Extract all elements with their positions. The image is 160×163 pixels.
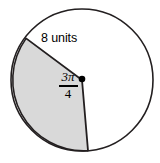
center-dot (79, 76, 86, 83)
figure-canvas (0, 0, 160, 163)
circle-sector-figure: 8 units 3π 4 (0, 0, 160, 163)
